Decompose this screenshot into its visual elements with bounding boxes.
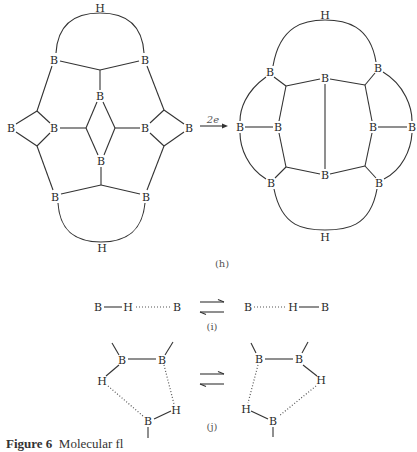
- atom-b-top-left: B: [118, 354, 126, 367]
- bond-arc-bottom: [274, 189, 377, 230]
- atom-b-center-top: B: [96, 90, 104, 103]
- bond-arc-left-upper: [240, 77, 266, 121]
- bond-arc-right-upper: [383, 72, 412, 121]
- arrowhead-icon: [222, 124, 228, 129]
- atom-b-top-left: B: [266, 66, 274, 79]
- bond-arc-left-lower: [240, 133, 266, 179]
- atom-b-top-left: B: [255, 353, 263, 366]
- atom-h-top: H: [95, 2, 105, 15]
- atom-b-bottom-left: B: [51, 191, 59, 204]
- atom-b-left-inner: B: [50, 122, 58, 135]
- atom-b-bottom: B: [269, 415, 277, 428]
- atom-b-center-bottom: B: [97, 155, 105, 168]
- atom-b-top-right: B: [158, 354, 166, 367]
- bond-arc-right-lower: [384, 133, 412, 179]
- panel-j-right: B B H H B: [241, 342, 326, 437]
- atom-b-bottom: B: [144, 415, 152, 428]
- atom-h-right: H: [171, 404, 181, 417]
- panel-j-left: B B H H B: [97, 342, 181, 438]
- atom-b-bottom-left: B: [267, 177, 275, 190]
- reaction-arrow: 2e: [200, 114, 228, 129]
- atom-b-bottom-center: B: [321, 169, 329, 182]
- atom-b-right-inner: B: [369, 121, 377, 134]
- caption-label: Figure 6: [6, 436, 52, 451]
- atom-b-left-outer: B: [236, 121, 244, 134]
- arrow-label: 2e: [206, 114, 219, 125]
- atom-h-bottom: H: [97, 242, 107, 255]
- equilibrium-arrows-icon: [200, 300, 224, 315]
- panel-i: B H B B H B (i): [94, 300, 329, 332]
- atom-b-right-outer: B: [185, 122, 193, 135]
- atom-h-bottom: H: [320, 231, 330, 244]
- figure-caption: Figure 6 Molecular fl: [6, 436, 123, 452]
- atom-b-top-center: B: [321, 72, 329, 85]
- equilibrium-arrows-icon: [200, 372, 224, 387]
- atom-b-top-left: B: [50, 54, 58, 67]
- panel-label-i: (i): [206, 321, 217, 332]
- atom-b-1: B: [94, 301, 102, 314]
- atom-h: H: [123, 301, 133, 314]
- atom-b-right-inner: B: [141, 122, 149, 135]
- atom-b-left-outer: B: [7, 122, 15, 135]
- atom-b-2: B: [321, 301, 329, 314]
- atom-h-left: H: [97, 375, 107, 388]
- atom-b-1: B: [244, 301, 252, 314]
- bond-arc-top: [273, 20, 376, 66]
- structure-h-left: H B B B B B B B B B B H: [7, 2, 193, 255]
- atom-b-top-right: B: [295, 353, 303, 366]
- bond-arc-bottom: [58, 203, 145, 242]
- atom-b-right-outer: B: [408, 121, 416, 134]
- atom-b-left-inner: B: [274, 121, 282, 134]
- panel-label-h: (h): [215, 258, 229, 269]
- bond-arc-top: [56, 13, 144, 53]
- atom-b-2: B: [173, 301, 181, 314]
- atom-b-bottom-right: B: [375, 177, 383, 190]
- atom-h: H: [288, 301, 298, 314]
- panel-label-j: (j): [207, 421, 218, 432]
- atom-h-left: H: [241, 403, 251, 416]
- caption-text: Molecular fl: [59, 436, 124, 451]
- atom-b-bottom-right: B: [142, 191, 150, 204]
- atom-b-top-right: B: [374, 62, 382, 75]
- atom-h-right: H: [316, 374, 326, 387]
- atom-h-top: H: [320, 9, 330, 22]
- atom-b-top-right: B: [141, 54, 149, 67]
- structure-h-right: H B B B B B B B B B B H: [236, 9, 416, 244]
